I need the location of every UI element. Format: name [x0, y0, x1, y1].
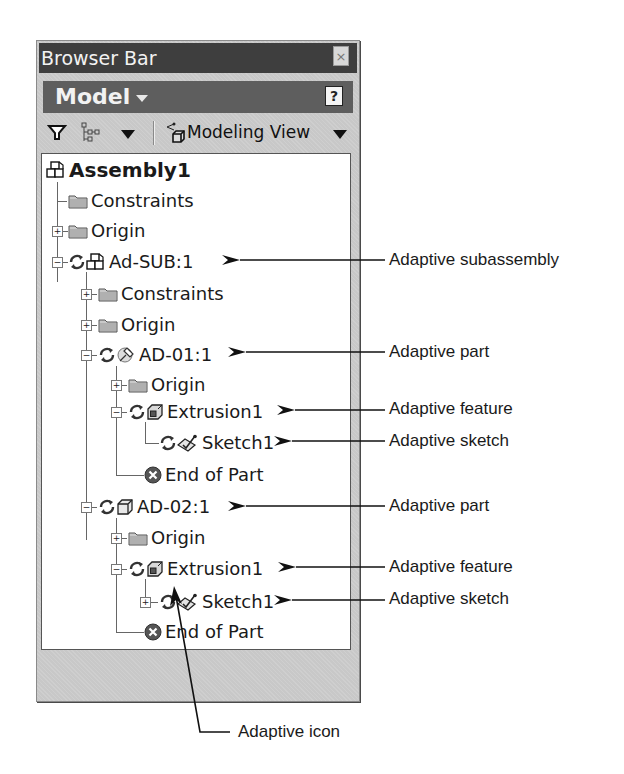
callout-adaptive-icon: Adaptive icon	[238, 722, 340, 742]
callout-adaptive-part: Adaptive part	[389, 496, 489, 516]
callout-adaptive-subassembly: Adaptive subassembly	[389, 250, 559, 270]
callout-adaptive-sketch: Adaptive sketch	[389, 589, 509, 609]
callout-arrows	[0, 0, 624, 774]
callout-adaptive-feature: Adaptive feature	[389, 557, 513, 577]
callout-adaptive-feature: Adaptive feature	[389, 399, 513, 419]
callout-adaptive-part: Adaptive part	[389, 342, 489, 362]
callout-adaptive-sketch: Adaptive sketch	[389, 431, 509, 451]
